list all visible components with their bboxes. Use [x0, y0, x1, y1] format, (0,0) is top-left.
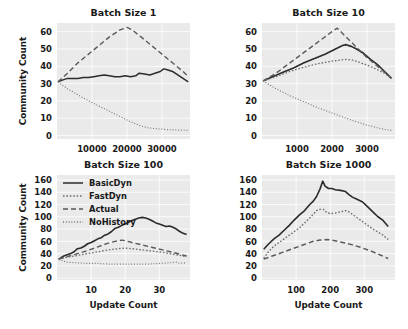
y-tick-label: 60 — [40, 27, 52, 37]
y-tick-label: 50 — [245, 44, 257, 54]
panel-batch-size-1: Batch Size 11000020000300000102030405060… — [18, 7, 190, 154]
panel-batch-size-1000: Batch Size 10001002003000204060801001201… — [239, 159, 395, 310]
y-tick-label: 40 — [245, 61, 257, 71]
y-tick-label: 0 — [251, 273, 257, 283]
y-tick-label: 60 — [245, 237, 257, 247]
y-tick-label: 120 — [239, 200, 257, 210]
y-tick-label: 30 — [40, 79, 52, 89]
y-tick-label: 40 — [40, 249, 52, 259]
x-tick-label: 1000 — [285, 144, 309, 154]
x-tick-label: 20 — [119, 285, 131, 295]
panel-title-batch-size-100: Batch Size 100 — [84, 159, 163, 170]
x-tick-label: 3000 — [355, 144, 379, 154]
y-tick-label: 140 — [239, 187, 257, 197]
y-tick-label: 10 — [40, 113, 52, 123]
legend-label-actual: Actual — [89, 204, 119, 214]
y-tick-label: 60 — [40, 237, 52, 247]
x-tick-label: 30000 — [147, 144, 177, 154]
y-tick-label: 20 — [40, 261, 52, 271]
x-tick-label: 100 — [287, 285, 305, 295]
panel-title-batch-size-1: Batch Size 1 — [91, 7, 157, 18]
multi-panel-line-chart: Batch Size 11000020000300000102030405060… — [0, 0, 408, 329]
y-tick-label: 80 — [40, 224, 52, 234]
x-tick-label: 10000 — [77, 144, 107, 154]
y-tick-label: 120 — [34, 200, 52, 210]
x-axis-label-batch-size-1000: Update Count — [294, 300, 362, 310]
y-tick-label: 100 — [34, 212, 52, 222]
y-tick-label: 40 — [40, 61, 52, 71]
y-tick-label: 0 — [46, 273, 52, 283]
x-tick-label: 30 — [153, 285, 165, 295]
y-tick-label: 80 — [245, 224, 257, 234]
y-tick-label: 20 — [245, 96, 257, 106]
y-tick-label: 0 — [46, 131, 52, 141]
plot-area-batch-size-10 — [262, 23, 395, 139]
y-tick-label: 60 — [245, 27, 257, 37]
figure-container: Batch Size 11000020000300000102030405060… — [0, 0, 408, 329]
x-tick-label: 300 — [355, 285, 373, 295]
y-axis-label-batch-size-100: Community Count — [18, 183, 28, 272]
x-tick-label: 2000 — [320, 144, 344, 154]
y-tick-label: 40 — [245, 249, 257, 259]
y-tick-label: 30 — [245, 79, 257, 89]
legend-label-basicdyn: BasicDyn — [89, 178, 132, 188]
y-tick-label: 160 — [34, 175, 52, 185]
x-tick-label: 10 — [85, 285, 97, 295]
y-axis-label-batch-size-1: Community Count — [18, 37, 28, 126]
legend-label-nohistory: NoHistory — [89, 217, 136, 227]
legend-label-fastdyn: FastDyn — [89, 191, 127, 201]
y-tick-label: 140 — [34, 187, 52, 197]
y-tick-label: 20 — [40, 96, 52, 106]
panel-batch-size-10: Batch Size 101000200030000102030405060 — [245, 7, 395, 154]
plot-area-batch-size-1000 — [262, 175, 395, 280]
x-tick-label: 200 — [321, 285, 339, 295]
y-tick-label: 0 — [251, 131, 257, 141]
x-tick-label: 20000 — [112, 144, 142, 154]
plot-area-batch-size-1 — [57, 23, 190, 139]
y-tick-label: 20 — [245, 261, 257, 271]
y-tick-label: 160 — [239, 175, 257, 185]
y-tick-label: 10 — [245, 113, 257, 123]
y-tick-label: 100 — [239, 212, 257, 222]
panel-title-batch-size-1000: Batch Size 1000 — [286, 159, 372, 170]
x-axis-label-batch-size-100: Update Count — [89, 300, 157, 310]
y-tick-label: 50 — [40, 44, 52, 54]
panel-title-batch-size-10: Batch Size 10 — [292, 7, 365, 18]
